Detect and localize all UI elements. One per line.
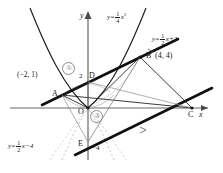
line2-eq-prefix: y= xyxy=(8,142,16,150)
region-label-3: ③ xyxy=(90,110,103,123)
point-b-dot xyxy=(138,55,141,58)
point-a-coordinates-label: (−2, 1) xyxy=(17,71,37,79)
segment-a-d xyxy=(62,82,88,95)
point-o-dot xyxy=(86,106,89,109)
y-tick-neg4-label: −4 xyxy=(92,145,99,152)
point-a-label: A xyxy=(52,90,58,98)
line-upper-equation-label: y=12x+2 xyxy=(152,33,177,47)
line-lower-equation-label: y=12x−4 xyxy=(8,140,33,154)
line2-fraction: 12 xyxy=(16,140,21,154)
parabola-fraction: 14 xyxy=(115,11,120,25)
y-axis-label: y xyxy=(80,12,84,20)
point-d-label: D xyxy=(89,72,95,80)
line2-frac-denominator: 2 xyxy=(16,146,21,153)
x-axis-label: x xyxy=(199,111,203,119)
point-e-label: E xyxy=(78,140,83,148)
parabola-equation-label: y=14x2 xyxy=(107,11,126,25)
parallel-tick-lower-icon xyxy=(140,127,146,133)
region-label-1: ① xyxy=(62,62,75,75)
figure-canvas xyxy=(0,0,223,173)
line1-eq-suffix: x+2 xyxy=(166,35,177,43)
point-b-label: B xyxy=(146,52,151,60)
point-c-label: C xyxy=(188,111,193,119)
y-tick-2-label: 2 xyxy=(79,73,83,80)
line1-fraction: 12 xyxy=(160,33,165,47)
segment-d-c xyxy=(88,82,192,108)
point-b-coordinates-label: (4, 4) xyxy=(155,52,172,60)
y-axis-arrow-icon xyxy=(85,11,92,19)
coordinate-geometry-figure: y x O y=14x2 y=12x+2 y=12x−4 (−2, 1) A B… xyxy=(0,0,223,173)
parabola-exponent: 2 xyxy=(124,12,126,17)
segment-b-c xyxy=(140,57,192,108)
parabola-eq-prefix: y= xyxy=(107,13,115,21)
line2-eq-suffix: x−4 xyxy=(22,142,33,150)
segment-a-e xyxy=(62,95,88,142)
origin-label: O xyxy=(78,108,84,116)
line1-eq-prefix: y= xyxy=(152,35,160,43)
parabola-frac-denominator: 4 xyxy=(115,17,120,24)
line1-frac-denominator: 2 xyxy=(160,39,165,46)
